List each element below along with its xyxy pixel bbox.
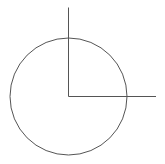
circle-axes-diagram — [0, 0, 165, 164]
diagram-canvas — [0, 0, 165, 164]
